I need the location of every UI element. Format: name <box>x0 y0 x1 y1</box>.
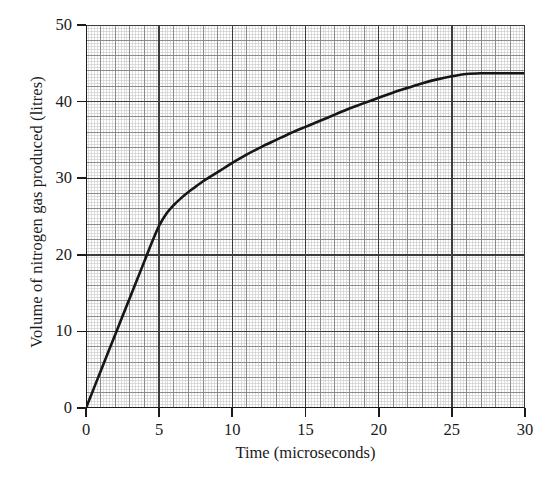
x-tick-mark <box>524 408 526 417</box>
x-tick-mark <box>158 408 160 417</box>
y-tick-mark <box>77 101 86 103</box>
y-axis-title: Volume of nitrogen gas produced (litres) <box>24 12 50 412</box>
y-tick-label-40: 40 <box>30 93 72 110</box>
x-tick-label-30: 30 <box>517 422 534 439</box>
x-tick-label-0: 0 <box>82 422 90 439</box>
y-tick-mark <box>77 177 86 179</box>
y-tick-label-10: 10 <box>30 323 72 340</box>
x-tick-mark <box>85 408 87 417</box>
x-tick-label-20: 20 <box>370 422 387 439</box>
plot-area <box>86 25 525 408</box>
x-axis-title: Time (microseconds) <box>86 443 525 463</box>
x-tick-label-25: 25 <box>444 422 461 439</box>
y-tick-label-30: 30 <box>30 170 72 187</box>
x-tick-label-5: 5 <box>155 422 163 439</box>
axis-frame <box>86 25 525 408</box>
y-tick-mark <box>77 331 86 333</box>
y-tick-mark <box>77 24 86 26</box>
y-tick-label-20: 20 <box>30 247 72 264</box>
x-tick-label-10: 10 <box>224 422 241 439</box>
x-tick-label-15: 15 <box>297 422 314 439</box>
chart-figure: Volume of nitrogen gas produced (litres)… <box>0 0 557 488</box>
y-tick-label-50: 50 <box>30 17 72 34</box>
x-tick-mark <box>305 408 307 417</box>
y-tick-label-0: 0 <box>30 400 72 417</box>
y-tick-mark <box>77 254 86 256</box>
x-tick-mark <box>378 408 380 417</box>
x-tick-mark <box>451 408 453 417</box>
x-tick-mark <box>231 408 233 417</box>
